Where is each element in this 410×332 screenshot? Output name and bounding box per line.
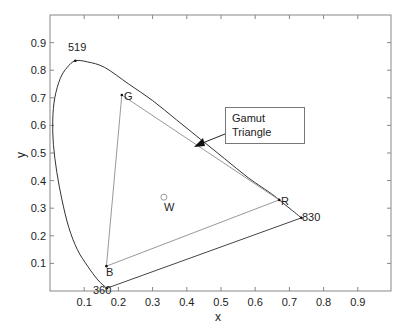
x-tick-label: 0.9: [350, 296, 365, 308]
cie-chromaticity-chart: 0.10.20.30.40.50.60.70.80.9 0.10.20.30.4…: [0, 0, 410, 332]
x-tick-label: 0.2: [111, 296, 126, 308]
point-markers: [74, 60, 303, 290]
y-tick-label: 0.1: [31, 257, 46, 269]
x-tick-label: 0.5: [213, 296, 228, 308]
y-tick-label: 0.4: [31, 175, 46, 187]
point-marker-519: [74, 60, 77, 63]
annotation-line-1: Gamut: [232, 111, 298, 125]
gamut-triangle-annotation: Gamut Triangle: [225, 107, 305, 144]
x-axis-label: x: [215, 310, 221, 324]
point-marker-g: [121, 94, 124, 97]
x-tick-label: 0.8: [316, 296, 331, 308]
y-tick-label: 0.9: [31, 37, 46, 49]
x-tick-label: 0.6: [248, 296, 263, 308]
annotation-line-2: Triangle: [232, 125, 298, 139]
y-tick-label: 0.3: [31, 202, 46, 214]
x-tick-label: 0.4: [179, 296, 194, 308]
x-tick-label: 0.1: [77, 296, 92, 308]
label-519: 519: [68, 41, 86, 53]
label-W: W: [164, 201, 175, 213]
x-tick-label: 0.3: [145, 296, 160, 308]
y-axis-label: y: [14, 152, 28, 158]
y-tick-label: 0.2: [31, 230, 46, 242]
y-tick-label: 0.7: [31, 92, 46, 104]
plot-frame: [50, 15, 391, 291]
y-tick-label: 0.8: [31, 64, 46, 76]
label-360: 360: [93, 284, 111, 296]
label-R: R: [281, 195, 289, 207]
point-marker-w: [161, 194, 167, 200]
label-G: G: [124, 90, 133, 102]
spectral-locus: [53, 60, 302, 288]
arrowhead-icon: [194, 138, 205, 147]
y-axis-ticks: 0.10.20.30.40.50.60.70.80.9: [31, 37, 391, 270]
label-830: 830: [302, 211, 320, 223]
y-tick-label: 0.5: [31, 147, 46, 159]
y-tick-label: 0.6: [31, 119, 46, 131]
label-B: B: [106, 266, 113, 278]
x-tick-label: 0.7: [282, 296, 297, 308]
